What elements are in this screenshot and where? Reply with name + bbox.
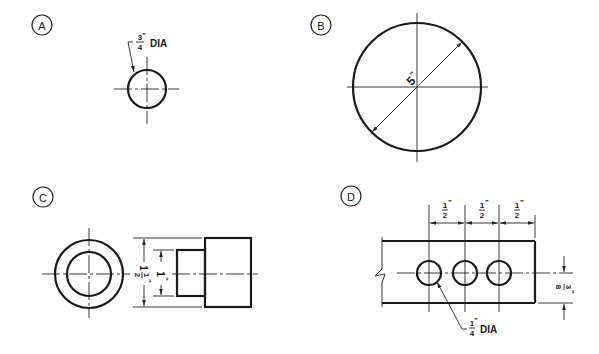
figure-b-label: B bbox=[311, 15, 331, 35]
large-step bbox=[205, 238, 251, 307]
fraction-numerator: 3 bbox=[564, 285, 573, 290]
fraction-denominator: 4 bbox=[470, 329, 475, 338]
side-view: 1 1 2 " 1 " bbox=[133, 238, 258, 307]
inner-diameter-value: 1 " bbox=[155, 271, 170, 281]
hole-callout: 1 4 " DIA bbox=[469, 316, 497, 338]
fraction-numerator: 1 bbox=[515, 201, 520, 210]
fraction-numerator: 1 bbox=[480, 201, 485, 210]
dia-suffix: DIA bbox=[150, 38, 167, 49]
fraction-denominator: 2 bbox=[133, 273, 142, 278]
break-line bbox=[375, 237, 385, 307]
figure-label-text: A bbox=[38, 20, 46, 32]
figure-label-text: B bbox=[317, 20, 324, 32]
whole-number: 1 bbox=[138, 265, 149, 271]
fraction-numerator: 1 bbox=[443, 201, 448, 210]
diameter-callout: 3 4 " DIA bbox=[136, 31, 167, 52]
inch-mark: " bbox=[448, 198, 452, 207]
edge-offset-value: 3 8 " bbox=[554, 284, 576, 294]
spacing-value: 1 2 " bbox=[514, 198, 524, 220]
inch-mark: " bbox=[144, 279, 153, 283]
figure-a: A 3 4 " DIA bbox=[32, 15, 179, 124]
fraction-denominator: 2 bbox=[515, 211, 520, 220]
fraction-denominator: 2 bbox=[480, 211, 485, 220]
front-view bbox=[42, 228, 130, 318]
spacing-value: 1 2 " bbox=[442, 198, 452, 220]
diameter-leader bbox=[128, 42, 134, 72]
figure-label-text: C bbox=[39, 192, 47, 204]
inch-mark: " bbox=[161, 277, 170, 281]
fraction-denominator: 2 bbox=[443, 211, 448, 220]
inch-mark: " bbox=[474, 316, 478, 325]
figure-b: B 5 " bbox=[311, 13, 488, 162]
figure-d: D 1 2 " 1 bbox=[341, 186, 576, 338]
inch-mark: " bbox=[567, 290, 576, 294]
figure-c-label: C bbox=[33, 187, 53, 207]
fraction-denominator: 4 bbox=[138, 43, 143, 52]
inch-mark: " bbox=[520, 198, 524, 207]
dia-suffix: DIA bbox=[480, 324, 497, 335]
spacing-value: 1 2 " bbox=[479, 198, 489, 220]
drawing-sheet: A 3 4 " DIA B 5 " C bbox=[0, 0, 599, 354]
figure-c: C 1 1 bbox=[33, 187, 258, 318]
inch-mark: " bbox=[142, 31, 146, 40]
fraction-denominator: 8 bbox=[554, 285, 563, 290]
fraction-numerator: 1 bbox=[142, 273, 151, 278]
inch-mark: " bbox=[485, 198, 489, 207]
figure-a-label: A bbox=[32, 15, 52, 35]
figure-d-label: D bbox=[341, 186, 361, 206]
figure-label-text: D bbox=[347, 191, 355, 203]
outer-diameter-value: 1 1 2 " bbox=[133, 265, 153, 283]
small-step bbox=[177, 250, 205, 296]
hole-callout-leader bbox=[437, 282, 467, 329]
